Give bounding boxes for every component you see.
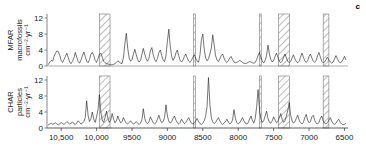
x-ticks: 10,50010,0009500900085008000750070006500 (49, 128, 354, 142)
y-tick-label: 0 (39, 124, 44, 133)
y-tick-label: 8 (39, 92, 44, 101)
y-tick-label: 12 (34, 14, 43, 23)
y-axis-titles: MFARmacrofossilscm⁻²·yr⁻¹CHARparticlescm… (6, 19, 32, 118)
y-tick-label: 0 (39, 62, 44, 71)
y-tick-label: 4 (39, 108, 44, 117)
x-tick-label: 7500 (265, 133, 283, 142)
x-tick-label: 9500 (123, 133, 141, 142)
x-tick-label: 8500 (194, 133, 212, 142)
band-2 (194, 14, 196, 66)
x-tick-label: 7000 (300, 133, 318, 142)
x-tick-label: 8000 (229, 133, 247, 142)
mfar-series-line (48, 29, 345, 65)
x-tick-label: 10,500 (49, 133, 74, 142)
chart-svg: 04812 04812 10,50010,0009500900085008000… (0, 0, 366, 167)
char-axis-title-line-3: cm⁻²·yr⁻¹ (23, 86, 32, 118)
panel-mfar: 04812 (34, 14, 348, 71)
band-4 (279, 76, 290, 128)
band-2 (194, 76, 196, 128)
hatched-bands-group (99, 14, 328, 128)
y-tick-label: 8 (39, 30, 44, 39)
char-series-line (48, 78, 345, 125)
y-tick-label: 12 (34, 76, 43, 85)
x-tick-label: 6500 (336, 133, 354, 142)
x-tick-label: 10,000 (84, 133, 109, 142)
band-5 (323, 76, 329, 128)
mfar-y-ticks: 04812 (34, 14, 47, 71)
mfar-axis-title-line-3: cm⁻²·yr⁻¹ (23, 24, 32, 56)
band-3 (259, 76, 261, 128)
figure-panel-c: c 04812 04812 10,50010,00095009000850080… (0, 0, 366, 167)
band-1 (99, 14, 110, 66)
y-tick-label: 4 (39, 46, 44, 55)
char-y-ticks: 04812 (34, 76, 47, 133)
band-4 (279, 14, 290, 66)
x-tick-label: 9000 (159, 133, 177, 142)
